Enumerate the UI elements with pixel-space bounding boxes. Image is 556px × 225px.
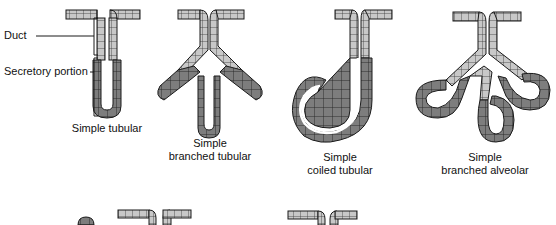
simple-coiled-tubular-gland (292, 10, 392, 142)
partial-gland-right (288, 211, 357, 225)
simple-branched-tubular-gland (158, 10, 263, 138)
duct-label: Duct (4, 29, 27, 42)
caption-line1: Simple tubular (71, 122, 143, 135)
caption-simple-branched-tubular: Simple branched tubular (160, 137, 260, 163)
secretory-portion-label: Secretory portion (4, 65, 88, 78)
caption-line2: branched tubular (160, 150, 260, 163)
caption-line2: branched alveolar (430, 164, 540, 177)
partial-gland-left (78, 210, 191, 225)
simple-branched-alveolar-gland (416, 12, 550, 142)
caption-line1: Simple (160, 137, 260, 150)
gland-diagram (0, 0, 556, 225)
caption-simple-branched-alveolar: Simple branched alveolar (430, 151, 540, 177)
simple-tubular-gland (66, 10, 140, 118)
caption-line2: coiled tubular (290, 164, 390, 177)
caption-simple-tubular: Simple tubular (71, 122, 143, 135)
caption-line1: Simple (430, 151, 540, 164)
caption-line1: Simple (290, 151, 390, 164)
caption-simple-coiled-tubular: Simple coiled tubular (290, 151, 390, 177)
